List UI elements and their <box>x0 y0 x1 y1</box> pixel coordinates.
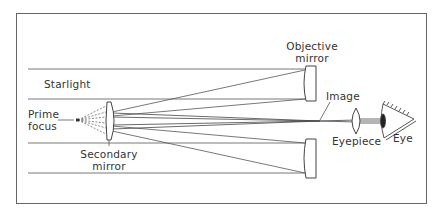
image-pointer <box>320 102 330 120</box>
telescope-diagram <box>0 0 444 216</box>
objective-mirror-upper <box>304 66 316 101</box>
eyepiece-label: Eyepiece <box>332 135 381 147</box>
prime-focus-label: Prime focus <box>28 108 59 132</box>
eye-label: Eye <box>393 132 413 144</box>
objective-mirror-lower <box>304 139 316 178</box>
objective-mirror-label-line2: mirror <box>282 52 342 64</box>
secondary-mirror-label-line2: mirror <box>78 160 140 172</box>
prime-focus-label-line1: Prime <box>28 108 59 120</box>
prime-focus-point <box>76 119 79 122</box>
diagram-frame <box>17 14 427 204</box>
secondary-mirror-label-line1: Secondary <box>78 148 140 160</box>
prime-focus-cone <box>78 106 106 134</box>
prime-focus-label-line2: focus <box>28 120 59 132</box>
secondary-mirror <box>106 102 114 140</box>
eyepiece-lens <box>352 108 360 134</box>
starlight-label: Starlight <box>44 78 91 90</box>
objective-mirror-label: Objective mirror <box>282 40 342 64</box>
objective-mirror-label-line1: Objective <box>282 40 342 52</box>
secondary-mirror-label: Secondary mirror <box>78 148 140 172</box>
converging-rays <box>112 113 380 129</box>
image-label: Image <box>326 90 360 102</box>
